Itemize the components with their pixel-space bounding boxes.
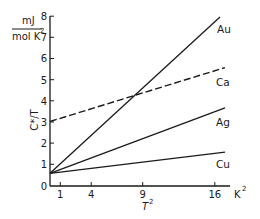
svg-text:2: 2	[242, 185, 246, 193]
series-label-ag: Ag	[216, 116, 230, 128]
y-unit: mJ mol K 2	[12, 15, 44, 42]
svg-text:0: 0	[41, 181, 47, 192]
x-unit: K 2	[234, 185, 246, 200]
y-tick-labels: 0 1 2 3 4 5 6 7 8	[41, 11, 47, 192]
svg-text:2: 2	[41, 138, 47, 149]
series-label-cu: Cu	[216, 158, 230, 170]
svg-text:4: 4	[88, 189, 94, 200]
svg-text:2: 2	[40, 27, 44, 35]
svg-text:6: 6	[41, 53, 47, 64]
series-cu-line	[50, 152, 225, 173]
svg-text:mol K: mol K	[12, 31, 41, 42]
svg-text:1: 1	[57, 189, 63, 200]
series-ca-line	[50, 68, 225, 122]
chart: 0 1 2 3 4 5 6 7 8 1 4 9 16 K 2 T 2 mJ mo…	[0, 0, 260, 219]
svg-text:9: 9	[140, 189, 146, 200]
svg-text:2: 2	[149, 198, 153, 206]
svg-text:16: 16	[208, 189, 221, 200]
x-axis-title: T 2	[142, 198, 153, 212]
x-tick-labels: 1 4 9 16	[57, 189, 221, 200]
svg-text:1: 1	[41, 159, 47, 170]
svg-text:mJ: mJ	[22, 15, 35, 26]
series-au-line	[50, 17, 220, 173]
series-ag-line	[50, 108, 225, 174]
svg-text:8: 8	[41, 11, 47, 22]
series-label-ca: Ca	[216, 76, 230, 88]
y-axis-title: C*/T	[29, 108, 40, 130]
series-label-au: Au	[217, 23, 231, 35]
svg-text:3: 3	[41, 117, 47, 128]
svg-text:5: 5	[41, 75, 47, 86]
svg-text:T: T	[142, 201, 149, 212]
svg-text:K: K	[234, 189, 241, 200]
svg-text:4: 4	[41, 96, 47, 107]
